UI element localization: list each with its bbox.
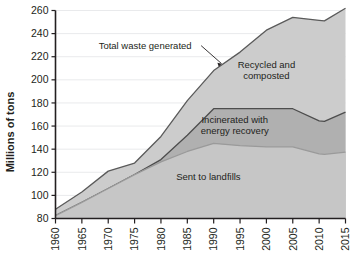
y-tick-label-120: 120	[31, 166, 49, 178]
y-tick-label-240: 240	[31, 27, 49, 39]
y-axis-title: Millions of tons	[4, 92, 16, 173]
y-tick-label-180: 180	[31, 97, 49, 109]
y-tick-label-80: 80	[37, 212, 49, 224]
x-tick-label-2000: 2000	[260, 227, 272, 251]
y-axis-title-text: Millions of tons	[4, 92, 16, 173]
waste-generation-stacked-area-chart: 80100120140160180200220240260 1960196519…	[0, 0, 357, 258]
series-label-line2: composted	[243, 70, 289, 81]
x-tick-label-1975: 1975	[128, 227, 140, 251]
series-label-line1: Incinerated with	[201, 114, 268, 125]
series-label-incinerated-with-energy-recovery: Incinerated withenergy recovery	[201, 114, 269, 136]
y-tick-label-140: 140	[31, 143, 49, 155]
y-tick-label-200: 200	[31, 73, 49, 85]
y-tick-label-260: 260	[31, 4, 49, 16]
series-label-sent-to-landfills: Sent to landfills	[176, 171, 241, 182]
annotation-label-total-waste-generated: Total waste generated	[99, 40, 192, 51]
x-tick-label-1990: 1990	[207, 227, 219, 251]
y-tick-label-100: 100	[31, 189, 49, 201]
x-tick-label-2010: 2010	[313, 227, 325, 251]
chart-container: 80100120140160180200220240260 1960196519…	[0, 0, 357, 258]
x-tick-label-1995: 1995	[234, 227, 246, 251]
x-tick-label-1960: 1960	[49, 227, 61, 251]
x-tick-label-1985: 1985	[181, 227, 193, 251]
y-tick-label-220: 220	[31, 50, 49, 62]
x-tick-label-1965: 1965	[76, 227, 88, 251]
series-label-line2: energy recovery	[201, 125, 269, 136]
x-tick-label-1980: 1980	[155, 227, 167, 251]
series-label-line1: Recycled and	[238, 59, 296, 70]
x-tick-label-2015: 2015	[339, 227, 351, 251]
x-tick-label-1970: 1970	[102, 227, 114, 251]
y-tick-label-160: 160	[31, 120, 49, 132]
x-tick-label-2005: 2005	[287, 227, 299, 251]
series-label-recycled-and-composted: Recycled andcomposted	[238, 59, 296, 81]
